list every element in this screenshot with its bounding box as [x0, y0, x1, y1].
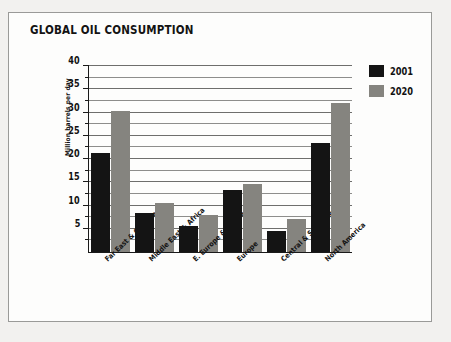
- y-axis-tick: [85, 123, 89, 124]
- y-axis-tick-label: 35: [69, 78, 80, 89]
- y-axis-tick: [83, 135, 89, 136]
- y-axis-title: Million barrels per day: [64, 78, 72, 156]
- bar-group: Far East & Oceania: [91, 66, 130, 252]
- bar-group: Middle East & Africa: [135, 66, 174, 252]
- legend-label: 2001: [390, 66, 413, 77]
- y-axis-tick-label: 15: [69, 171, 80, 182]
- chart-title: GLOBAL OIL CONSUMPTION: [30, 22, 194, 37]
- bar-2020: [331, 103, 350, 252]
- bar-group: Central & South America: [267, 66, 306, 252]
- y-axis-tick: [83, 205, 89, 206]
- plot-area: 510152025303540Far East & OceaniaMiddle …: [88, 66, 352, 253]
- y-axis-tick-label: 40: [69, 55, 80, 66]
- y-axis-tick: [85, 216, 89, 217]
- bar-2001: [311, 143, 330, 252]
- bar-2001: [91, 153, 110, 252]
- bar-2001: [267, 231, 286, 252]
- y-axis-tick-label: 25: [69, 124, 80, 135]
- y-axis-tick: [85, 170, 89, 171]
- legend-swatch: [369, 65, 384, 77]
- chart-legend: 20012020: [369, 65, 431, 105]
- legend-item: 2001: [369, 65, 431, 77]
- y-axis-tick-label: 20: [69, 148, 80, 159]
- y-axis-tick: [83, 112, 89, 113]
- legend-label: 2020: [390, 86, 413, 97]
- y-axis-tick-label: 30: [69, 101, 80, 112]
- legend-item: 2020: [369, 85, 431, 97]
- y-axis-tick: [83, 88, 89, 89]
- bar-2020: [111, 111, 130, 252]
- y-axis-tick: [85, 193, 89, 194]
- y-axis-tick: [85, 100, 89, 101]
- bar-group: Europe: [223, 66, 262, 252]
- figure-frame: GLOBAL OIL CONSUMPTION Million barrels p…: [8, 12, 432, 322]
- y-axis-tick: [85, 239, 89, 240]
- y-axis-tick: [83, 228, 89, 229]
- y-axis-tick: [83, 158, 89, 159]
- y-axis-tick: [83, 65, 89, 66]
- y-axis-tick-label: 10: [69, 194, 80, 205]
- y-axis-tick: [85, 146, 89, 147]
- bar-group: North America: [311, 66, 350, 252]
- bar-group: E. Europe & Russia: [179, 66, 218, 252]
- bar-2001: [135, 213, 154, 252]
- bar-2001: [223, 190, 242, 252]
- figure-page: GLOBAL OIL CONSUMPTION Million barrels p…: [0, 0, 451, 342]
- bar-2001: [179, 226, 198, 253]
- y-axis-tick-label: 5: [74, 217, 80, 228]
- y-axis-tick: [85, 77, 89, 78]
- legend-swatch: [369, 85, 384, 97]
- y-axis-tick: [83, 181, 89, 182]
